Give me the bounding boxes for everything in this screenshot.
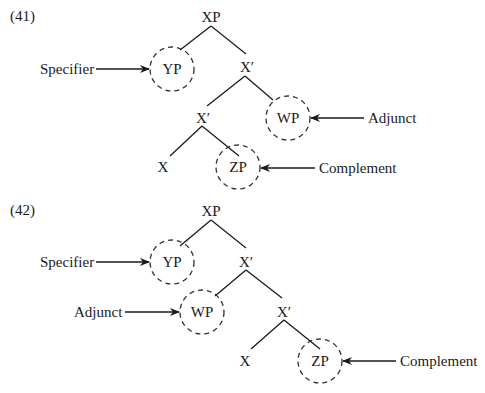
node-wp: WP <box>277 110 300 126</box>
edge-xbar-wp <box>215 270 246 296</box>
node-xbar-upper: X′ <box>240 59 254 75</box>
diagram-41: (41) XP YP X′ WP X′ X ZP Specifier Adjun… <box>10 8 417 189</box>
label-complement: Complement <box>400 353 478 369</box>
x-bar-diagrams: (41) XP YP X′ WP X′ X ZP Specifier Adjun… <box>0 0 485 393</box>
node-xbar-upper: X′ <box>239 254 253 270</box>
node-x: X <box>240 353 251 369</box>
label-specifier: Specifier <box>40 61 94 77</box>
edge-xbar-x <box>170 126 202 156</box>
diagram-42: (42) XP YP X′ WP X′ X ZP Specifier Adjun… <box>10 202 478 383</box>
label-adjunct: Adjunct <box>368 110 417 126</box>
edge-xbar-xbar <box>207 76 245 106</box>
label-specifier: Specifier <box>40 254 94 270</box>
node-xbar-lower: X′ <box>196 110 210 126</box>
example-number: (42) <box>10 202 35 219</box>
label-complement: Complement <box>319 160 397 176</box>
edge-xp-xbar <box>211 220 246 248</box>
node-zp: ZP <box>229 159 247 175</box>
node-xp: XP <box>201 9 220 25</box>
node-wp: WP <box>191 304 214 320</box>
edge-xbar-xbar <box>246 270 282 298</box>
node-x: X <box>158 159 169 175</box>
node-yp: YP <box>162 254 181 270</box>
example-number: (41) <box>10 8 35 25</box>
label-adjunct: Adjunct <box>74 304 123 320</box>
edge-xbar-zp <box>284 320 320 349</box>
node-yp: YP <box>162 61 181 77</box>
edge-xbar-zp <box>202 126 239 156</box>
edge-xbar-wp <box>245 76 273 100</box>
edge-xbar-x <box>251 320 284 349</box>
node-xbar-lower: X′ <box>277 304 291 320</box>
edge-xp-yp <box>180 26 211 50</box>
edge-xp-yp <box>180 220 211 246</box>
node-xp: XP <box>201 203 220 219</box>
edge-xp-xbar <box>211 26 246 54</box>
node-zp: ZP <box>311 353 329 369</box>
